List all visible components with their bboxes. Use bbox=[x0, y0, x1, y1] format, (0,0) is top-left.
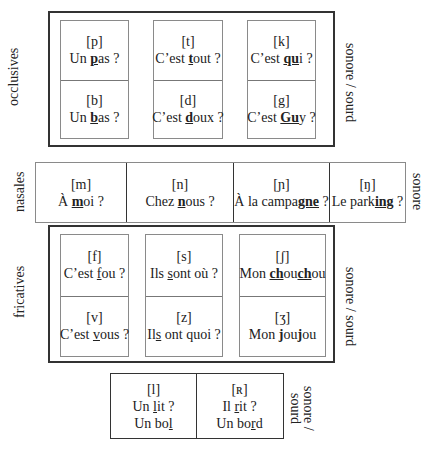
phoneme-g: [g] C’est Guy ? bbox=[248, 80, 315, 139]
phoneme-t: [t] C’est tout ? bbox=[154, 21, 222, 81]
occlusives-label: occlusives bbox=[6, 32, 22, 122]
phoneme-gn: [ɲ] À la campagne ? bbox=[234, 163, 330, 222]
nasales-row: [m] À moi ? [n] Chez nous ? [ɲ] À la cam… bbox=[35, 162, 406, 223]
occlusives-voicing-label: sonore / sourd bbox=[342, 38, 358, 128]
fricative-pair-sh-zh: [ʃ] Mon chouchou [ʒ] Mon joujou bbox=[239, 234, 326, 357]
phoneme-k: [k] C’est qui ? bbox=[248, 21, 315, 81]
phoneme-r: [ʀ] Il rit ? Un bord bbox=[197, 374, 282, 438]
ipa-symbol: [b] bbox=[86, 92, 102, 109]
occlusive-pair-t-d: [t] C’est tout ? [d] C’est doux ? bbox=[153, 20, 223, 139]
nasales-label: nasales bbox=[12, 162, 28, 222]
phoneme-z: [z] Ils ont quoi ? bbox=[146, 296, 222, 357]
phoneme-v: [v] C’est vous ? bbox=[61, 296, 128, 357]
phoneme-l: [l] Un lit ? Un bol bbox=[111, 374, 197, 438]
liquides-row: [l] Un lit ? Un bol [ʀ] Il rit ? Un bord bbox=[110, 373, 284, 439]
phoneme-zh: [ʒ] Mon joujou bbox=[240, 296, 325, 357]
phoneme-ng: [ŋ] Le parking ? bbox=[330, 163, 405, 222]
fricatives-label: fricatives bbox=[12, 252, 28, 332]
fricatives-voicing-label: sonore / sourd bbox=[342, 262, 358, 352]
occlusive-pair-k-g: [k] C’est qui ? [g] C’est Guy ? bbox=[247, 20, 316, 139]
phoneme-n: [n] Chez nous ? bbox=[127, 163, 234, 222]
ipa-symbol: [d] bbox=[180, 92, 196, 109]
ipa-symbol: [t] bbox=[181, 33, 194, 50]
phoneme-sh: [ʃ] Mon chouchou bbox=[240, 235, 325, 297]
phoneme-m: [m] À moi ? bbox=[36, 163, 127, 222]
phoneme-s: [s] Ils sont où ? bbox=[146, 235, 222, 297]
liquides-voicing-label-2: sourd bbox=[287, 386, 303, 432]
fricative-pair-s-z: [s] Ils sont où ? [z] Ils ont quoi ? bbox=[145, 234, 223, 357]
phoneme-d: [d] C’est doux ? bbox=[154, 80, 222, 139]
ipa-symbol: [k] bbox=[273, 33, 289, 50]
fricative-pair-f-v: [f] C’est fou ? [v] C’est vous ? bbox=[60, 234, 129, 357]
ipa-symbol: [p] bbox=[86, 33, 102, 50]
nasales-voicing-label: sonore bbox=[409, 168, 425, 216]
phoneme-f: [f] C’est fou ? bbox=[61, 235, 128, 297]
phoneme-b: [b] Un bas ? bbox=[61, 80, 128, 139]
phoneme-p: [p] Un pas ? bbox=[61, 21, 128, 81]
occlusive-pair-p-b: [p] Un pas ? [b] Un bas ? bbox=[60, 20, 129, 139]
ipa-symbol: [g] bbox=[273, 92, 289, 109]
